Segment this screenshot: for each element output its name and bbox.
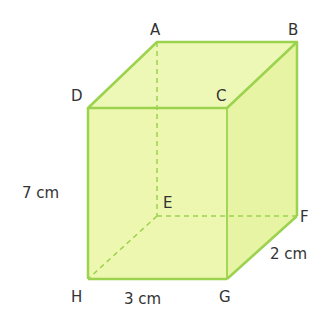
width-label: 3 cm [124, 290, 161, 308]
vertex-label-d: D [71, 87, 83, 105]
vertex-label-c: C [216, 87, 226, 105]
vertex-label-f: F [300, 208, 309, 226]
vertex-label-a: A [150, 21, 161, 39]
vertex-label-h: H [71, 288, 82, 306]
depth-label: 2 cm [270, 245, 307, 263]
vertex-label-e: E [163, 194, 172, 212]
vertex-label-b: B [288, 21, 298, 39]
vertex-label-g: G [219, 288, 231, 306]
height-label: 7 cm [22, 184, 59, 202]
cuboid-diagram: A B C D E F G H 7 cm 3 cm 2 cm [0, 0, 323, 325]
